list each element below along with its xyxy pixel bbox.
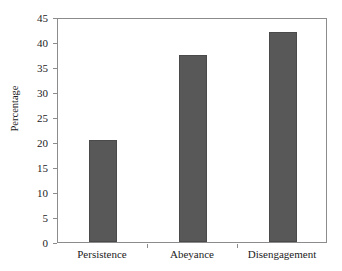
y-tick-label: 25 — [37, 110, 48, 126]
plot-area — [57, 18, 327, 243]
bar-disengagement — [269, 32, 297, 242]
y-tick-label: 30 — [37, 85, 48, 101]
y-tick-label: 45 — [37, 10, 48, 26]
y-tick-label: 0 — [43, 235, 49, 251]
y-tick-mark — [53, 243, 57, 244]
y-tick-label: 40 — [37, 35, 48, 51]
x-axis-label-disengagement: Disengagement — [237, 247, 327, 261]
x-axis-label-abeyance: Abeyance — [147, 247, 237, 261]
y-tick-label: 20 — [37, 135, 48, 151]
y-axis-title: Percentage — [9, 64, 20, 154]
bar-abeyance — [179, 55, 207, 242]
x-axis-label-persistence: Persistence — [57, 247, 147, 261]
y-tick-label: 10 — [37, 185, 48, 201]
bar-chart-figure: Percentage 0 5 10 15 20 25 30 — [0, 0, 342, 271]
y-tick-label: 35 — [37, 60, 48, 76]
y-tick-label: 5 — [43, 210, 49, 226]
y-tick-label: 15 — [37, 160, 48, 176]
bar-persistence — [89, 140, 117, 242]
